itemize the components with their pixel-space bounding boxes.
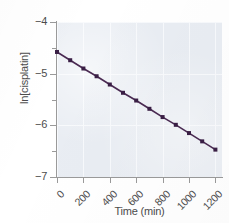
gridline-vertical bbox=[110, 22, 111, 177]
x-axis-spine bbox=[56, 177, 223, 178]
y-axis-tick-minor bbox=[52, 100, 57, 101]
y-axis-tick-major bbox=[50, 74, 57, 75]
x-axis-tick bbox=[57, 178, 58, 183]
gridline-horizontal bbox=[57, 22, 222, 23]
y-axis-tick-major bbox=[50, 22, 57, 23]
x-axis-tick bbox=[163, 178, 164, 183]
y-axis-tick-minor bbox=[52, 48, 57, 49]
x-axis-title: Time (min) bbox=[57, 205, 222, 217]
x-axis-tick bbox=[83, 178, 84, 183]
y-axis-tick-label: −7 bbox=[35, 170, 47, 182]
gridline-vertical bbox=[215, 22, 216, 177]
gridline-horizontal bbox=[57, 74, 222, 75]
x-axis-tick bbox=[110, 178, 111, 183]
gridline-vertical bbox=[57, 22, 58, 177]
gridline-vertical bbox=[83, 22, 84, 177]
gridline-vertical bbox=[163, 22, 164, 177]
gridline-vertical bbox=[136, 22, 137, 177]
y-axis-tick-label: −6 bbox=[35, 118, 47, 130]
gridline-vertical bbox=[189, 22, 190, 177]
y-axis-tick-label: −5 bbox=[35, 67, 47, 79]
chart-figure: −4−5−6−7020040060080010001200 ln[cisplat… bbox=[0, 0, 229, 223]
y-axis-title: ln[cisplatin] bbox=[18, 8, 30, 148]
y-axis-tick-label: −4 bbox=[35, 15, 47, 27]
plot-area bbox=[57, 22, 222, 177]
y-axis-tick-major bbox=[50, 125, 57, 126]
x-axis-tick bbox=[136, 178, 137, 183]
x-axis-tick bbox=[189, 178, 190, 183]
y-axis-tick-major bbox=[50, 177, 57, 178]
x-axis-tick bbox=[215, 178, 216, 183]
gridline-horizontal bbox=[57, 125, 222, 126]
y-axis-tick-minor bbox=[52, 151, 57, 152]
